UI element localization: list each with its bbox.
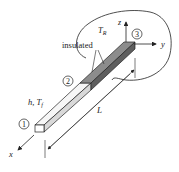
insulated-label: insulated (62, 40, 93, 50)
radiation-subscript: R (102, 30, 107, 36)
axis-y-label: y (160, 39, 165, 49)
node-1-label: 1 (22, 120, 26, 129)
fin-insulated-side (91, 42, 135, 90)
convection-label: h, Tf (28, 97, 44, 108)
axis-z-label: z (117, 18, 122, 27)
node-2-label: 2 (66, 77, 70, 86)
node-3-label: 3 (135, 30, 139, 39)
fin-exposed-top (35, 83, 91, 125)
radiation-label: TR (98, 25, 107, 36)
axis-x-label: x (8, 149, 13, 159)
length-label: L (96, 105, 102, 115)
convection-subscript: f (41, 102, 44, 108)
fin-end-face (35, 125, 44, 132)
fin-exposed-side (44, 83, 91, 132)
insulated-pointer-2 (98, 50, 104, 64)
fin-diagram: 1 2 3 h, Tf TR insulated L x y z (0, 0, 179, 172)
axis-x-line (18, 135, 34, 150)
